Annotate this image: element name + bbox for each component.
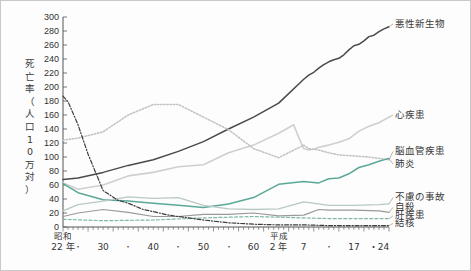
svg-text:180: 180 (44, 96, 59, 106)
y-axis-ticks: 0204060801001201401601802002202402602803… (44, 12, 67, 232)
series-labels: 悪性新生物心疾患脳血管疾患肺炎不慮の事故自殺肝疾患結核 (389, 18, 445, 229)
y-axis-title: 死亡率（人口10万対） (25, 58, 35, 195)
series-line-6 (63, 217, 389, 221)
svg-text:60: 60 (49, 180, 59, 190)
svg-text:200: 200 (44, 82, 59, 92)
x-axis-ticks (63, 227, 389, 232)
svg-text:120: 120 (44, 138, 59, 148)
series-line-7 (63, 96, 389, 226)
series-lines (63, 27, 389, 226)
svg-text:100: 100 (44, 152, 59, 162)
svg-text:口: 口 (25, 121, 35, 132)
x-tick-label-2000: ・ (325, 243, 333, 252)
svg-text:40: 40 (49, 194, 59, 204)
svg-text:（: （ (25, 96, 35, 107)
leader-line-1 (389, 115, 393, 117)
svg-text:死: 死 (25, 58, 35, 69)
series-label-0: 悪性新生物 (395, 18, 445, 29)
leader-line-4 (389, 198, 393, 204)
svg-text:140: 140 (44, 124, 59, 134)
svg-text:240: 240 (44, 54, 59, 64)
svg-text:80: 80 (49, 166, 59, 176)
series-label-7: 結核 (395, 217, 415, 228)
x-tick-label-1960: ・ (124, 243, 132, 252)
x-tick-label-1947: 22 年 (51, 241, 74, 252)
era-label-昭和: 昭和 (54, 231, 72, 241)
svg-text:300: 300 (44, 12, 59, 22)
era-label-平成: 平成 (270, 231, 288, 241)
svg-text:0: 0 (27, 146, 33, 157)
leader-line-6 (389, 216, 393, 219)
x-tick-label-1980: ・ (225, 243, 233, 252)
x-tick-label-1985: 60 (248, 242, 260, 252)
svg-text:万: 万 (25, 159, 35, 170)
axes (63, 17, 389, 227)
series-label-1: 心疾患 (395, 109, 425, 120)
mortality-line-chart: 死亡率（人口10万対）02040608010012014016018020022… (1, 1, 471, 271)
chart-figure: 死亡率（人口10万対）02040608010012014016018020022… (0, 0, 471, 271)
x-axis-labels: 22 年昭和・30・40・50・602 年平成7・17・24 (51, 231, 389, 252)
x-tick-label-2005: 17 (348, 242, 359, 252)
leader-line-5 (389, 207, 393, 212)
svg-text:対: 対 (25, 171, 35, 182)
svg-text:160: 160 (44, 110, 59, 120)
svg-text:20: 20 (49, 208, 59, 218)
svg-text:280: 280 (44, 26, 59, 36)
x-tick-label-1975: 50 (198, 242, 210, 252)
series-line-0 (63, 27, 389, 180)
series-label-2: 脳血管疾患 (395, 145, 445, 156)
x-tick-label-1970: ・ (174, 243, 182, 252)
series-line-5 (63, 210, 389, 217)
x-tick-label-2010: ・24 (369, 242, 390, 252)
leader-line-3 (389, 158, 393, 164)
leader-line-2 (389, 151, 393, 159)
x-tick-label-1955: 30 (97, 242, 109, 252)
leader-line-7 (389, 224, 393, 226)
series-label-3: 肺炎 (395, 158, 415, 169)
x-tick-label-1950: ・ (74, 243, 82, 252)
svg-text:人: 人 (25, 108, 35, 119)
svg-text:率: 率 (25, 83, 35, 94)
svg-text:260: 260 (44, 40, 59, 50)
leader-line-0 (389, 24, 393, 27)
x-tick-label-1995: 7 (301, 242, 307, 252)
svg-text:1: 1 (27, 134, 33, 145)
series-line-2 (63, 105, 389, 160)
svg-text:亡: 亡 (25, 71, 35, 82)
x-tick-label-1990: 2 年 (270, 241, 288, 252)
svg-text:220: 220 (44, 68, 59, 78)
x-tick-label-1965: 40 (148, 242, 160, 252)
svg-text:）: ） (25, 184, 35, 195)
